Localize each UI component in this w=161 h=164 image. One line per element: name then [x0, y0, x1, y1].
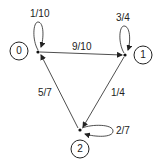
edge-2-2-label: 2/7	[116, 126, 130, 136]
node-0-label: 0	[10, 42, 28, 60]
node-2-dot	[78, 128, 81, 131]
node-0-dot	[36, 50, 39, 53]
edge-0-0-label: 1/10	[30, 9, 49, 19]
node-1-label: 1	[134, 46, 152, 64]
edge-2-2	[82, 125, 113, 136]
edge-1-1-label: 3/4	[116, 13, 130, 23]
edge-0-1	[40, 52, 122, 55]
edge-1-2-label: 1/4	[111, 88, 125, 98]
edge-2-0-label: 5/7	[38, 88, 52, 98]
edge-0-0	[34, 22, 43, 50]
edge-1-1	[120, 26, 130, 53]
node-2-label: 2	[71, 140, 89, 158]
markov-chain-diagram: 0 1 2 1/10 9/10 3/4 1/4 2/7 5/7	[0, 0, 161, 164]
node-1-dot	[123, 53, 126, 56]
edge-0-1-label: 9/10	[72, 42, 91, 52]
